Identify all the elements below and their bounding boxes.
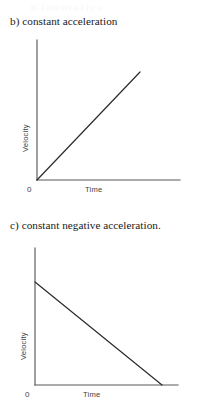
figure-b-chart: Velocity Time 0: [0, 32, 208, 198]
figure-c-y-axis-label: Velocity: [19, 332, 28, 360]
figure-b-x-axis-label: Time: [85, 185, 102, 194]
page-bleed-through-text: Kinematics: [30, 0, 182, 11]
figure-c-origin-label: 0: [25, 390, 30, 399]
figure-page: Kinematics b) constant acceleration Velo…: [0, 0, 208, 419]
figure-b-velocity-line: [37, 72, 140, 180]
figure-c-caption: c) constant negative acceleration.: [10, 219, 161, 231]
figure-b-origin-label: 0: [27, 185, 32, 194]
figure-c-chart: Velocity Time 0: [0, 240, 208, 402]
figure-c-x-axis-label: Time: [83, 390, 100, 399]
figure-c-velocity-line: [35, 282, 162, 385]
figure-b-y-axis-label: Velocity: [21, 124, 30, 152]
figure-b-caption: b) constant acceleration: [10, 15, 117, 27]
